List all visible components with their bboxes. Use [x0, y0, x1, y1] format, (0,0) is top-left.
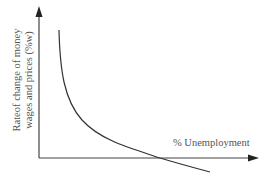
- phillips-curve-diagram: [0, 0, 264, 181]
- y-axis-label-line1: Rateof change of money: [11, 5, 23, 155]
- y-axis: [36, 6, 43, 158]
- x-axis-label: % Unemployment: [173, 137, 250, 148]
- x-axis-arrow-icon: [248, 155, 259, 162]
- y-axis-arrow-icon: [36, 6, 43, 17]
- x-axis: [39, 155, 259, 162]
- phillips-curve: [59, 30, 210, 172]
- y-axis-label: Rateof change of money wages and prices …: [11, 5, 35, 155]
- y-axis-label-line2: wages and prices (%w): [23, 5, 35, 155]
